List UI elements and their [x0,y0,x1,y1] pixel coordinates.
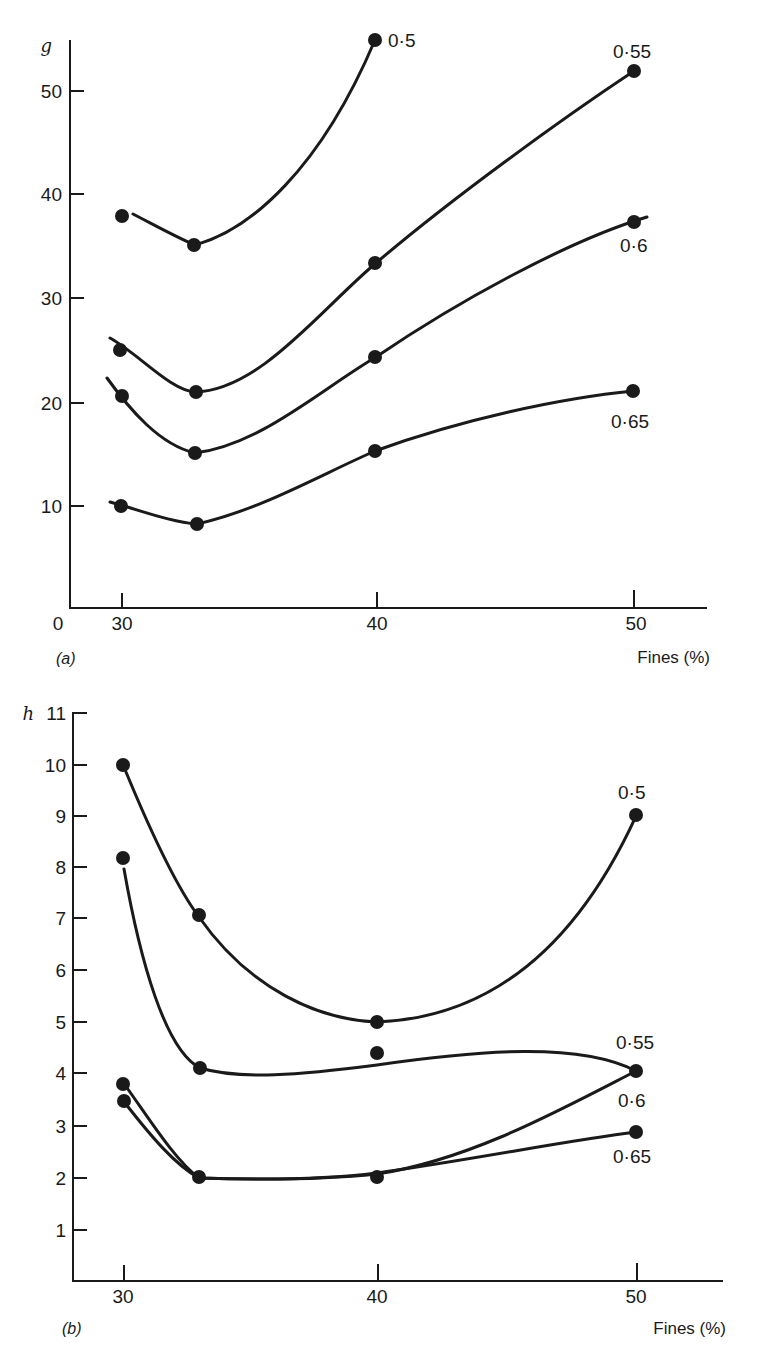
x-ticks-b [124,1263,637,1281]
series-0.55-b: 0·55 [116,851,654,1078]
y-tick-label: 10 [41,496,62,517]
series-label: 0·55 [616,1032,654,1053]
y-tick-label: 4 [55,1063,66,1084]
series-label: 0·55 [613,41,651,62]
y-ticks-b [73,713,87,1230]
series-0.5-b: 0·5 [116,758,645,1029]
panel-label-b: (b) [62,1320,82,1337]
y-tick-label: 10 [45,755,66,776]
series-label: 0·5 [388,30,415,51]
y-tick-label: 9 [55,806,66,827]
y-tick-label: 30 [41,288,62,309]
series-label: 0·6 [618,1090,645,1111]
x-tick-label: 50 [625,1286,646,1307]
y-tick-label: 7 [55,908,66,929]
y-axis-variable-h: h [22,703,34,724]
x-axis-title: Fines (%) [653,1319,726,1338]
chart-b: 11 10 9 8 7 6 5 4 3 2 1 h 30 40 50 Fines… [22,703,726,1338]
series-0.6-a: 0·6 [107,215,647,460]
x-tick-label: 30 [112,1286,133,1307]
series-label: 0·65 [611,411,649,432]
y-tick-label: 1 [55,1220,66,1241]
x-tick-label: 40 [366,613,387,634]
y-tick-label: 6 [55,960,66,981]
x-tick-label: 50 [625,613,646,634]
y-ticks-a [70,91,84,506]
y-tick-label: 50 [41,81,62,102]
series-0.5-a: 0·5 [115,30,415,252]
y-tick-label: 11 [46,703,66,724]
y-tick-label: 20 [41,393,62,414]
series-label: 0·5 [618,782,645,803]
series-0.55-a: 0·55 [110,41,651,399]
origin-label: 0 [53,613,64,634]
y-axis-variable-g: g [40,35,52,56]
x-axis-title: Fines (%) [637,648,710,667]
x-tick-label: 40 [366,1286,387,1307]
series-0.6-b: 0·6 [116,1071,645,1184]
y-tick-label: 3 [55,1116,66,1137]
x-tick-label: 30 [111,613,132,634]
panel-label-a: (a) [56,650,76,667]
figure: 50 40 30 20 10 g 0 30 40 50 Fines (%) (a… [0,0,757,1363]
y-tick-label: 40 [41,184,62,205]
y-tick-label: 2 [55,1168,66,1189]
chart-a: 50 40 30 20 10 g 0 30 40 50 Fines (%) (a… [40,30,710,667]
series-label: 0·65 [613,1146,651,1167]
y-tick-label: 8 [55,857,66,878]
y-tick-label: 5 [55,1012,66,1033]
x-ticks-a [122,590,634,608]
series-label: 0·6 [620,235,647,256]
